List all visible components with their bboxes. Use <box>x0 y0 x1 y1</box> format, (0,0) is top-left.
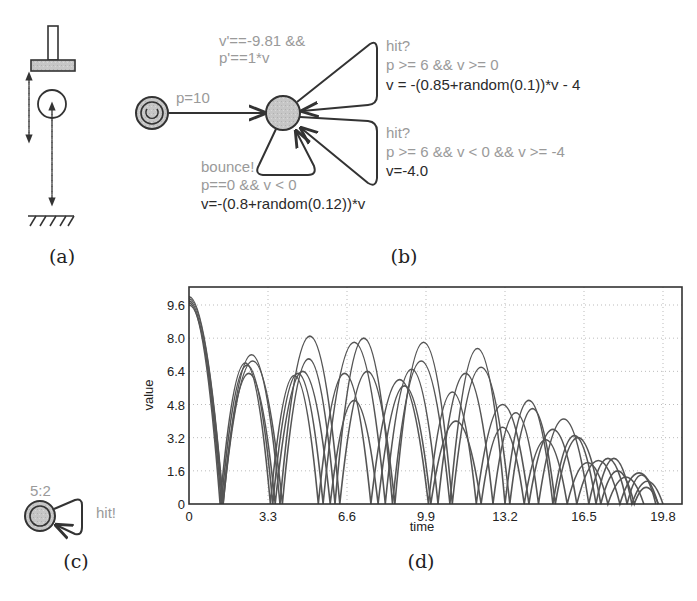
y-tick-label: 6.4 <box>167 364 185 379</box>
hit1-update: v = -(0.85+random(0.1))*v - 4 <box>386 76 580 93</box>
y-tick-label: 0 <box>178 497 185 512</box>
caption-b: (b) <box>391 245 418 267</box>
panel-d: 01.63.24.86.48.09.6 03.36.69.913.216.519… <box>141 287 682 572</box>
y-axis-title: value <box>141 379 156 410</box>
y-axis-ticks: 01.63.24.86.48.09.6 <box>167 298 185 512</box>
trajectory-line <box>189 303 658 504</box>
x-tick-label: 19.8 <box>650 509 675 524</box>
y-tick-label: 4.8 <box>167 398 185 413</box>
caption-a: (a) <box>49 245 75 267</box>
x-tick-label: 0 <box>185 509 192 524</box>
paddle-icon <box>31 60 75 71</box>
x-tick-label: 13.2 <box>492 509 517 524</box>
bounce-update: v=-(0.8+random(0.12))*v <box>201 195 366 212</box>
y-tick-label: 3.2 <box>167 431 185 446</box>
initial-edge-label: p=10 <box>176 89 210 106</box>
main-location-node <box>266 96 300 130</box>
x-tick-label: 16.5 <box>571 509 596 524</box>
rate-label: 5:2 <box>30 482 51 499</box>
hit-sync-label: hit! <box>96 504 116 521</box>
panel-b: p=10 v'==-9.81 && p'==1*v hit? p >= 6 &&… <box>136 32 580 267</box>
invariant-line1: v'==-9.81 && <box>219 32 305 49</box>
bounce-edge <box>257 129 315 175</box>
x-tick-label: 3.3 <box>259 509 277 524</box>
hit-self-loop <box>54 500 82 535</box>
hit2-sync: hit? <box>386 124 410 141</box>
panel-a: (a) <box>28 26 75 267</box>
ground-icon <box>28 216 74 226</box>
x-axis-title: time <box>410 519 435 534</box>
y-tick-label: 8.0 <box>167 331 185 346</box>
caption-c: (c) <box>63 550 88 572</box>
invariant-line2: p'==1*v <box>219 49 270 66</box>
figure: (a) p=10 v'==-9.81 && p'==1*v hit? p >= … <box>0 0 697 601</box>
caption-d: (d) <box>408 550 435 572</box>
hit2-guard: p >= 6 && v < 0 && v >= -4 <box>386 143 565 160</box>
initial-location-node <box>136 97 168 129</box>
hit-edge-1 <box>297 43 377 111</box>
paddle-handle <box>48 26 58 60</box>
hit1-guard: p >= 6 && v >= 0 <box>386 56 499 73</box>
panel-c: 5:2 hit! (c) <box>25 482 116 572</box>
bounce-sync: bounce! <box>201 158 254 175</box>
hit2-update: v=-4.0 <box>386 162 428 179</box>
y-tick-label: 1.6 <box>167 464 185 479</box>
x-tick-label: 6.6 <box>338 509 356 524</box>
bounce-guard: p==0 && v < 0 <box>201 176 297 193</box>
hit1-sync: hit? <box>386 37 410 54</box>
y-tick-label: 9.6 <box>167 298 185 313</box>
